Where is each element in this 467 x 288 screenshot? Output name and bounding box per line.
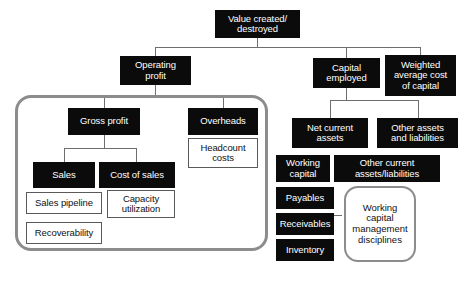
connector-to-operating-profit	[155, 47, 156, 56]
connector-capital-employed-stem	[346, 88, 347, 100]
node-operating-profit[interactable]: Operating profit	[120, 56, 191, 85]
connector-to-wacc	[420, 47, 421, 55]
node-recoverability[interactable]: Recoverability	[26, 222, 102, 244]
node-inventory[interactable]: Inventory	[276, 239, 334, 261]
node-wc-disciplines-label: Working capital management disciplines	[352, 203, 407, 246]
node-overheads[interactable]: Overheads	[188, 108, 258, 135]
node-net-current-assets[interactable]: Net current assets	[292, 118, 368, 148]
node-capacity-utilization[interactable]: Capacity utilization	[107, 190, 175, 218]
node-payables[interactable]: Payables	[276, 187, 334, 209]
node-operating-profit-label: Operating profit	[133, 60, 178, 81]
node-other-assets-and-liabilities-label: Other assets and liabilities	[389, 123, 446, 144]
connector-capital-employed-bus	[330, 100, 418, 101]
node-other-assets-and-liabilities[interactable]: Other assets and liabilities	[377, 118, 458, 148]
connector-to-net-current-assets	[330, 100, 331, 118]
node-inventory-label: Inventory	[284, 245, 326, 255]
node-sales-pipeline-label: Sales pipeline	[33, 198, 95, 208]
node-other-current-assets-liabilities-label: Other current assets/liabilities	[353, 158, 421, 179]
node-net-current-assets-label: Net current assets	[305, 123, 355, 144]
node-weighted-average-cost-of-capital[interactable]: Weighted average cost of capital	[385, 55, 456, 96]
node-overheads-label: Overheads	[198, 116, 248, 126]
diagram-canvas: Value created/ destroyed Operating profi…	[0, 0, 467, 288]
node-sales-label: Sales	[50, 170, 77, 180]
node-other-current-assets-liabilities[interactable]: Other current assets/liabilities	[334, 155, 440, 182]
node-value-created-destroyed-label: Value created/ destroyed	[226, 14, 289, 35]
node-headcount-costs[interactable]: Headcount costs	[188, 138, 258, 168]
node-working-capital[interactable]: Working capital	[276, 155, 330, 182]
node-gross-profit[interactable]: Gross profit	[68, 108, 140, 135]
connector-root-bus	[155, 47, 420, 48]
node-sales[interactable]: Sales	[33, 162, 95, 188]
node-capital-employed-label: Capital employed	[324, 63, 368, 84]
node-gross-profit-label: Gross profit	[78, 116, 130, 126]
node-payables-label: Payables	[284, 193, 326, 203]
node-receivables-label: Receivables	[278, 219, 333, 229]
node-working-capital-label: Working capital	[284, 158, 322, 179]
node-headcount-costs-label: Headcount costs	[198, 143, 247, 164]
connector-to-capital-employed	[346, 47, 347, 58]
node-wacc-label: Weighted average cost of capital	[392, 60, 449, 91]
node-capacity-utilization-label: Capacity utilization	[120, 194, 163, 215]
node-working-capital-management-disciplines[interactable]: Working capital management disciplines	[344, 186, 416, 262]
node-value-created-destroyed[interactable]: Value created/ destroyed	[215, 10, 300, 38]
node-cost-of-sales-label: Cost of sales	[108, 170, 166, 180]
connector-to-other-assets	[418, 100, 419, 118]
node-receivables[interactable]: Receivables	[276, 213, 334, 235]
node-sales-pipeline[interactable]: Sales pipeline	[26, 192, 102, 214]
node-capital-employed[interactable]: Capital employed	[313, 58, 380, 88]
node-recoverability-label: Recoverability	[33, 228, 95, 238]
node-cost-of-sales[interactable]: Cost of sales	[99, 162, 175, 188]
